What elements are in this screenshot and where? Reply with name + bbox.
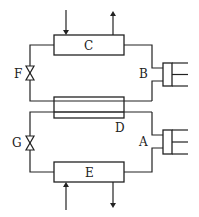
- e-outlet-arrowhead-icon: [110, 203, 116, 208]
- c-inlet-arrowhead-icon: [63, 30, 69, 35]
- pipe-d-a: [152, 112, 163, 135]
- label-b: B: [139, 67, 148, 81]
- valve-f-icon: [25, 66, 35, 80]
- label-a: A: [138, 135, 148, 149]
- pipe-b-d: [152, 81, 163, 101]
- label-g: G: [12, 136, 22, 150]
- pipe-a-e: [124, 148, 163, 172]
- cylinder-b-icon: [163, 63, 188, 86]
- cycle-diagram: C D E F G B A: [0, 0, 199, 217]
- label-d: D: [115, 121, 125, 135]
- heat-exchanger-d: [54, 97, 124, 118]
- label-f: F: [14, 67, 22, 81]
- cylinder-a-icon: [163, 130, 188, 154]
- label-e: E: [85, 166, 94, 180]
- pipe-c-b: [124, 45, 163, 68]
- valve-g-icon: [25, 136, 35, 150]
- label-c: C: [84, 39, 93, 53]
- c-outlet-arrowhead-icon: [110, 11, 116, 16]
- e-inlet-arrowhead-icon: [63, 182, 69, 187]
